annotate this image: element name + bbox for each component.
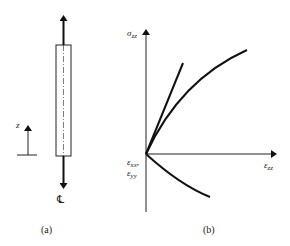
caption-a: (a) [41, 224, 52, 235]
caption-b: (b) [203, 224, 215, 235]
diagram-canvas [0, 0, 290, 246]
origin-label-eyy: εyy [127, 168, 137, 181]
x-axis-label: εzz [264, 160, 273, 173]
initial-tangent-line [146, 63, 183, 154]
z-axis-label: z [16, 120, 20, 130]
lateral-strain-curve [146, 154, 210, 197]
axial-stress-strain-curve [146, 50, 247, 154]
specimen [56, 45, 71, 156]
y-axis-label: σzz [127, 28, 137, 41]
centerline-symbol: ℄ [57, 193, 64, 206]
